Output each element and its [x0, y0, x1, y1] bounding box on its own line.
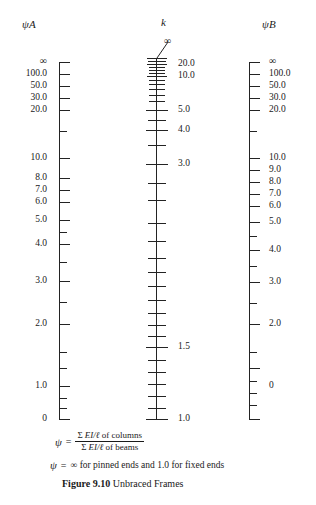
tick-minor: [249, 131, 257, 132]
tick-label: 20.0: [178, 59, 195, 69]
tick-label: 10.0: [30, 153, 47, 163]
tick-label: 30.0: [30, 93, 47, 103]
tick-minor: [148, 286, 166, 287]
tick-label: 3.0: [35, 276, 47, 286]
tick-label: 4.0: [178, 125, 190, 135]
tick-minor: [149, 95, 165, 96]
tick-label: 0: [42, 414, 47, 424]
tick-minor: [149, 84, 165, 85]
tick-label: 1.0: [35, 381, 47, 391]
tick-label: 4.0: [35, 239, 47, 249]
tick-major: [59, 220, 70, 221]
column-header-k: k: [161, 16, 166, 28]
tick-minor: [249, 393, 257, 394]
axis-line-k: [156, 58, 157, 419]
tick-label: 5.0: [35, 215, 47, 225]
tick-major: [249, 74, 260, 75]
tick-minor: [148, 325, 166, 326]
tick-minor: [148, 336, 166, 337]
tick-label: 5.0: [178, 105, 190, 115]
tick-minor: [148, 408, 166, 409]
axis-line-psi-b: [249, 62, 250, 419]
tick-minor: [149, 101, 165, 102]
tick-major: [249, 419, 260, 420]
tick-major: [146, 164, 168, 165]
tick-label: 5.0: [269, 217, 281, 227]
tick-major: [249, 194, 260, 195]
tick-major: [146, 347, 168, 348]
tick-major: [249, 282, 260, 283]
tick-major: [146, 110, 168, 111]
tick-minor: [149, 89, 165, 90]
tick-minor: [148, 120, 166, 121]
sigma-symbol: Σ: [77, 430, 84, 440]
tick-major: [147, 76, 167, 77]
tick-label: 6.0: [35, 197, 47, 207]
tick-label: 6.0: [269, 201, 281, 211]
psi-definition-formula: ψ = ΣEI/ℓ of columns ΣEI/ℓ of beams: [55, 430, 144, 453]
tick-label: 10.0: [269, 153, 286, 163]
tick-major: [59, 190, 70, 191]
tick-minor: [148, 372, 166, 373]
tick-minor: [148, 313, 166, 314]
ei-over-l-term: EI/ℓ: [85, 430, 100, 440]
numerator-suffix: of columns: [102, 430, 142, 440]
tick-major: [147, 64, 167, 65]
nomograph-figure: ψA k ψB ∞ 100.0 50.0 30.0 20.0 10.0 8.0: [0, 0, 316, 505]
tick-label: 7.0: [35, 185, 47, 195]
figure-caption: Figure 9.10 Unbraced Frames: [62, 478, 183, 489]
tick-minor: [148, 300, 166, 301]
tick-minor: [148, 360, 166, 361]
tick-minor: [59, 131, 67, 132]
tick-major: [249, 86, 260, 87]
tick-label: 20.0: [30, 105, 47, 115]
tick-major: [249, 222, 260, 223]
tick-minor: [249, 236, 257, 237]
tick-major: [59, 281, 70, 282]
tick-label: 50.0: [269, 81, 286, 91]
tick-major: [146, 419, 168, 420]
tick-major: [59, 324, 70, 325]
figure-number: Figure 9.10: [62, 478, 110, 489]
tick-minor: [249, 381, 257, 382]
tick-major: [59, 419, 70, 420]
tick-major: [249, 98, 260, 99]
formula-denominator: ΣEI/ℓ of beams: [79, 442, 140, 453]
tick-minor: [59, 408, 67, 409]
denominator-suffix: of beams: [105, 442, 138, 452]
tick-label: 2.0: [35, 319, 47, 329]
tick-major: [59, 158, 70, 159]
tick-major: [59, 98, 70, 99]
tick-label: 7.0: [269, 189, 281, 199]
tick-minor: [149, 73, 165, 74]
column-header-psi-b: ψB: [262, 18, 276, 30]
tick-minor: [148, 61, 166, 62]
tick-major: [59, 110, 70, 111]
tick-major: [249, 158, 260, 159]
tick-minor: [148, 145, 166, 146]
formula-numerator: ΣEI/ℓ of columns: [75, 430, 144, 442]
tick-minor: [59, 232, 67, 233]
tick-minor: [249, 405, 257, 406]
tick-major: [59, 62, 70, 63]
tick-label: ∞: [40, 56, 47, 66]
equals-symbol: =: [60, 460, 71, 471]
tick-minor: [148, 272, 166, 273]
tick-label: 4.0: [269, 245, 281, 255]
tick-major: [146, 130, 168, 131]
tick-label: ∞: [269, 56, 276, 66]
tick-major: [249, 250, 260, 251]
axis-line-psi-a: [59, 62, 60, 419]
tick-label: 1.5: [178, 342, 190, 352]
tick-minor: [148, 396, 166, 397]
psi-symbol: ψ: [50, 459, 60, 471]
tick-label: 8.0: [35, 173, 47, 183]
tick-major: [249, 368, 260, 369]
tick-minor: [148, 258, 166, 259]
psi-symbol: ψ: [55, 436, 65, 448]
tick-minor: [148, 241, 166, 242]
tick-label: 0: [269, 381, 274, 391]
tick-minor: [59, 352, 67, 353]
tick-minor: [149, 67, 165, 68]
tick-label: 1.0: [178, 414, 190, 424]
